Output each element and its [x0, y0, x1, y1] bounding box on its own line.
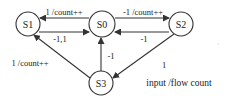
edge-label-s3-to-s1: 1 /count++ [11, 58, 48, 68]
edge-label-s2-to-s3: 1 [162, 60, 166, 70]
speck-dot [217, 43, 218, 44]
node-label-s1: S1 [23, 19, 34, 30]
edge-label-s0-to-s2: -1 /count++ [123, 7, 163, 17]
edge-label-s0-to-s1: 1 /count++ [45, 7, 82, 17]
diagram-caption: input /flow count [146, 78, 212, 88]
state-diagram: S1 S0 S2 S3 1 /count++ -1,1 -1 /count++ … [0, 0, 236, 102]
edge-label-s3-to-s0: -1 [107, 51, 114, 61]
node-label-s0: S0 [97, 19, 108, 30]
node-label-s3: S3 [96, 78, 107, 89]
edge-label-s2-to-s0: -1 [140, 34, 147, 44]
edge-label-s1-to-s0: -1,1 [53, 34, 66, 44]
node-label-s2: S2 [176, 19, 187, 30]
